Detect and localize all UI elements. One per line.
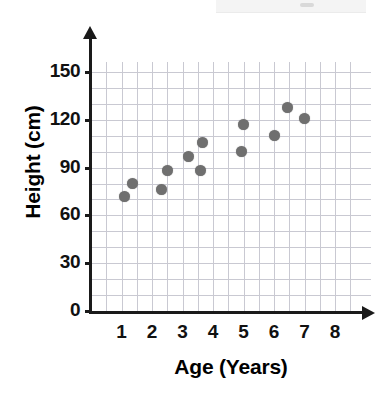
gridline-vertical	[152, 62, 153, 311]
gridline-horizontal	[91, 120, 371, 121]
gridline-vertical	[274, 62, 275, 311]
gridline-vertical	[198, 62, 199, 311]
x-axis-tick-label: 8	[323, 321, 347, 343]
data-point	[162, 165, 173, 176]
gridline-vertical	[305, 62, 306, 311]
y-axis-tick	[85, 214, 92, 217]
scan-artifact-strip	[216, 0, 366, 13]
gridline-vertical	[289, 62, 290, 311]
x-axis-tick-label: 2	[140, 321, 164, 343]
gridline-horizontal	[91, 88, 371, 89]
gridline-horizontal	[91, 247, 371, 248]
gridline-vertical	[320, 62, 321, 311]
gridline-horizontal	[91, 215, 371, 216]
x-axis-arrow-icon	[362, 306, 375, 320]
gridline-vertical	[183, 62, 184, 311]
data-point	[282, 102, 293, 113]
y-axis-tick	[85, 119, 92, 122]
x-axis-tick-label: 4	[201, 321, 225, 343]
gridline-vertical	[350, 62, 351, 311]
gridline-horizontal	[91, 72, 371, 73]
data-point	[183, 151, 194, 162]
gridline-horizontal	[91, 104, 371, 105]
gridline-vertical	[167, 62, 168, 311]
y-axis-line	[89, 36, 92, 314]
y-axis-tick	[85, 167, 92, 170]
gridline-horizontal	[91, 295, 371, 296]
gridline-vertical	[335, 62, 336, 311]
scatter-plot-figure: 0306090120150 12345678 Height (cm) Age (…	[0, 0, 382, 395]
data-point	[269, 130, 280, 141]
gridline-vertical	[259, 62, 260, 311]
x-axis-line	[89, 311, 365, 314]
y-axis-tick	[85, 71, 92, 74]
x-axis-tick-label: 3	[171, 321, 195, 343]
data-point	[119, 191, 130, 202]
y-axis-tick	[85, 310, 92, 313]
gridline-horizontal	[91, 279, 371, 280]
data-point	[127, 178, 138, 189]
gridline-horizontal	[91, 136, 371, 137]
y-axis-tick	[85, 262, 92, 265]
gridline-vertical	[106, 62, 107, 311]
y-axis-tick-label: 0	[0, 299, 80, 321]
data-point	[197, 137, 208, 148]
gridline-vertical	[213, 62, 214, 311]
x-axis-tick-label: 6	[262, 321, 286, 343]
scan-artifact-mark	[300, 3, 314, 7]
y-axis-title: Height (cm)	[21, 67, 45, 257]
gridline-vertical	[244, 62, 245, 311]
x-axis-tick-label: 1	[110, 321, 134, 343]
gridline-horizontal	[91, 231, 371, 232]
gridline-vertical	[122, 62, 123, 311]
x-axis-title: Age (Years)	[91, 355, 371, 379]
y-axis-arrow-icon	[83, 26, 97, 39]
data-point	[238, 119, 249, 130]
x-axis-tick-label: 7	[293, 321, 317, 343]
data-point	[156, 184, 167, 195]
gridline-horizontal	[91, 152, 371, 153]
gridline-vertical	[228, 62, 229, 311]
gridline-horizontal	[91, 199, 371, 200]
gridline-horizontal	[91, 263, 371, 264]
gridline-horizontal	[91, 168, 371, 169]
data-point	[299, 113, 310, 124]
x-axis-tick-label: 5	[232, 321, 256, 343]
